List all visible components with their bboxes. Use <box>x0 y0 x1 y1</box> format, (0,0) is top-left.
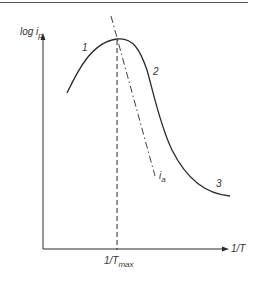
region-1-label: 1 <box>82 43 88 53</box>
tmax-tick-label: 1/Tmax <box>104 256 134 269</box>
y-axis <box>41 33 46 249</box>
plot-area <box>0 0 258 286</box>
region-2-label: 2 <box>153 67 159 77</box>
x-axis <box>43 247 229 252</box>
x-axis-label: 1/T <box>231 244 245 254</box>
figure: log ip 1 2 3 ia 1/T 1/Tmax <box>0 0 258 286</box>
region-3-label: 3 <box>216 179 222 189</box>
ia-label: ia <box>159 171 166 184</box>
ia-dashdot-line <box>111 16 155 176</box>
y-axis-label: log ip <box>20 27 43 40</box>
log-ip-curve <box>67 39 230 196</box>
x-axis-arrow-icon <box>222 247 229 252</box>
